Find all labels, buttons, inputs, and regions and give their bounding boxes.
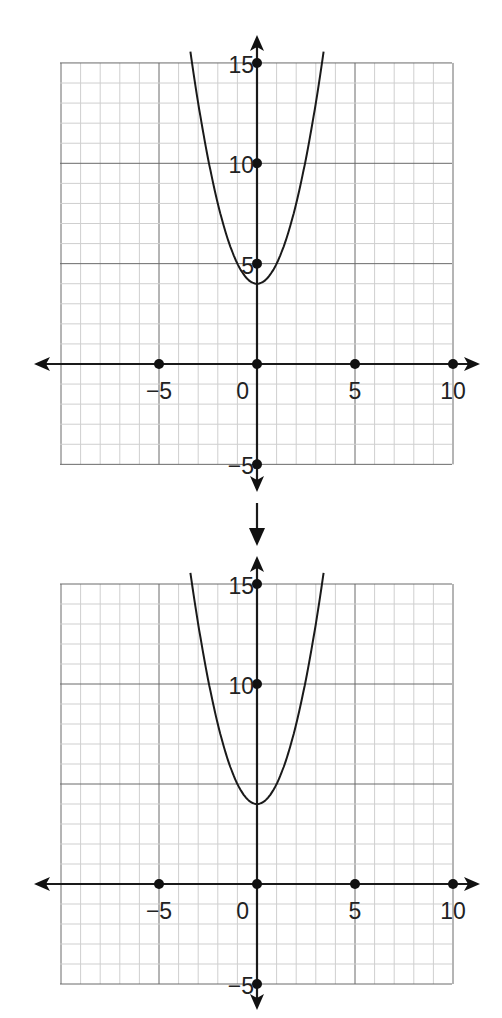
x-label-neg5: −5 — [146, 898, 172, 924]
x-label-5: 5 — [349, 898, 362, 924]
x-label-neg5: −5 — [146, 378, 172, 404]
y-label-neg5: −5 — [228, 453, 254, 479]
transition-arrow-icon — [249, 503, 265, 546]
x-label-0: 0 — [236, 898, 249, 924]
y-label-10: 10 — [228, 673, 254, 699]
y-label-5: 5 — [241, 253, 254, 279]
tick-labels: −5 0 5 10 15 10 −5 — [146, 573, 466, 999]
y-label-15: 15 — [228, 52, 254, 78]
figure: −5 0 5 10 15 10 5 −5 −5 0 5 10 15 10 −5 — [0, 0, 502, 1018]
graph-bottom: −5 0 5 10 15 10 −5 — [34, 556, 480, 1010]
graph-top: −5 0 5 10 15 10 5 −5 — [34, 35, 480, 492]
x-label-5: 5 — [349, 378, 362, 404]
y-label-15: 15 — [228, 573, 254, 599]
x-label-10: 10 — [440, 378, 466, 404]
tick-labels: −5 0 5 10 15 10 5 −5 — [146, 52, 466, 479]
x-label-10: 10 — [440, 898, 466, 924]
y-label-neg5: −5 — [228, 973, 254, 999]
y-label-10: 10 — [228, 152, 254, 178]
x-label-0: 0 — [236, 378, 249, 404]
